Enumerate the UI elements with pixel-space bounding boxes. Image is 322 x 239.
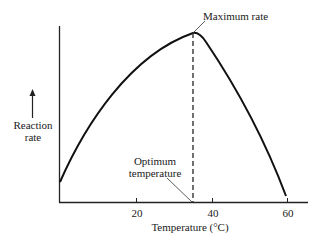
optimum-annotation-line1: Optimum <box>120 155 190 167</box>
x-tick-label-40: 40 <box>202 207 224 219</box>
max-rate-leader <box>193 21 205 33</box>
x-tick-label-20: 20 <box>126 207 148 219</box>
x-tick-label-60: 60 <box>277 207 299 219</box>
optimum-leader <box>167 178 192 202</box>
x-axis-label: Temperature (°C) <box>130 221 250 233</box>
y-axis-label-line2: rate <box>13 131 53 143</box>
max-rate-annotation: Maximum rate <box>203 10 268 22</box>
optimum-annotation-line2: temperature <box>120 167 190 179</box>
y-axis-label-line1: Reaction <box>13 119 53 131</box>
up-arrow-icon <box>30 89 36 96</box>
